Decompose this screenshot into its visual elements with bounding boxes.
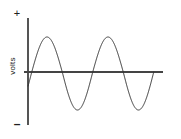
waveform-plot xyxy=(0,0,181,139)
sine-wave-curve xyxy=(28,37,154,110)
waveform-figure: + volts – xyxy=(0,0,181,139)
